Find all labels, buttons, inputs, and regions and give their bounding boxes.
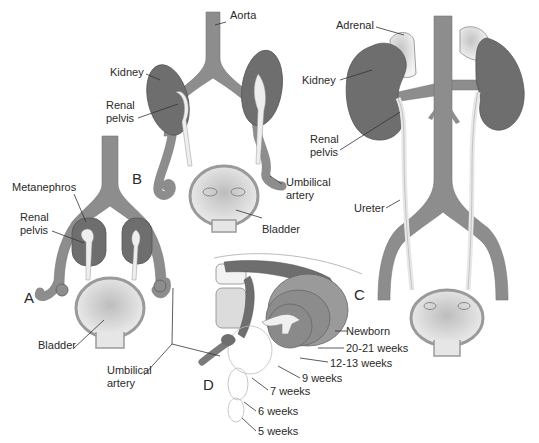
label-ureter: Ureter — [354, 202, 385, 215]
bladder-b — [190, 166, 258, 226]
panel-label-c: C — [354, 286, 365, 303]
label-stage-9-weeks: 9 weeks — [302, 372, 342, 385]
label-bladder-a: Bladder — [38, 339, 76, 352]
label-umbilical-artery-b-1: Umbilical — [286, 176, 331, 189]
label-umbilical-artery-a-1: Umbilical — [107, 364, 152, 377]
label-adrenal: Adrenal — [336, 19, 374, 32]
kidney-b-left — [140, 60, 196, 140]
label-renal-pelvis-b-1: Renal — [106, 99, 135, 112]
label-umbilical-artery-a-2: artery — [107, 377, 135, 390]
label-stage-7-weeks: 7 weeks — [270, 385, 310, 398]
kidney-c-right — [476, 38, 524, 130]
label-umbilical-artery-b-2: artery — [286, 189, 314, 202]
panel-label-a: A — [24, 289, 34, 306]
label-stage-5-weeks: 5 weeks — [258, 425, 298, 438]
panel-b-illustration — [140, 12, 287, 232]
panel-a-illustration — [39, 136, 166, 348]
label-stage-12-13-weeks: 12-13 weeks — [330, 357, 392, 370]
label-kidney-b: Kidney — [110, 66, 144, 79]
panel-label-d: D — [203, 376, 214, 393]
label-metanephros: Metanephros — [12, 181, 76, 194]
panel-c-illustration — [346, 16, 524, 356]
label-stage-6-weeks: 6 weeks — [258, 405, 298, 418]
label-stage-newborn: Newborn — [346, 325, 390, 338]
label-aorta: Aorta — [230, 9, 256, 22]
label-bladder-b: Bladder — [262, 223, 300, 236]
anatomy-illustration — [0, 0, 539, 443]
panel-label-b: B — [132, 170, 142, 187]
label-renal-pelvis-a-2: pelvis — [20, 224, 48, 237]
bladder-c — [411, 290, 483, 346]
label-renal-pelvis-c-1: Renal — [310, 133, 339, 146]
label-stage-20-21-weeks: 20-21 weeks — [346, 342, 408, 355]
umbilical-artery-b-left — [158, 136, 172, 195]
bladder-a — [76, 278, 144, 338]
aorta-a — [54, 136, 166, 286]
label-renal-pelvis-a-1: Renal — [20, 211, 49, 224]
kidney-c-left — [346, 43, 406, 140]
label-renal-pelvis-b-2: pelvis — [106, 112, 134, 125]
kidney-development-figure: B A C D Aorta Kidney Renal pelvis Umbili… — [0, 0, 539, 443]
label-renal-pelvis-c-2: pelvis — [310, 146, 338, 159]
umbilical-artery-a-left — [39, 282, 58, 297]
label-kidney-c: Kidney — [302, 74, 336, 87]
